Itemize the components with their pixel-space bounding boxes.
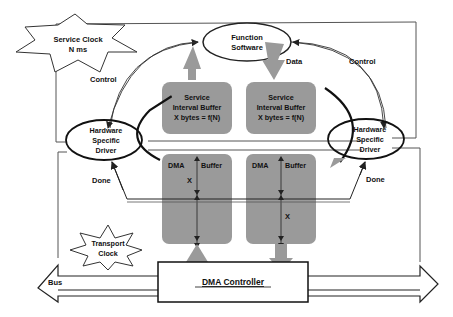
done-label-left: Done [92, 176, 111, 185]
up-arrow-dma-left [186, 244, 208, 262]
dma-left-x-label: X [187, 176, 192, 185]
data-label: Data [286, 57, 303, 66]
dma-left-buffer-label: Buffer [201, 161, 222, 170]
sib-left-label-3: X bytes = f(N) [174, 113, 221, 122]
dma-buffer-right: DMA Buffer X [246, 154, 316, 248]
service-clock-star: Service Clock N ms [16, 14, 137, 72]
control-label-left: Control [90, 75, 117, 84]
service-interval-buffer-right: Service Interval Buffer X bytes = f(N) [246, 82, 316, 134]
dma-right-label: DMA [252, 161, 268, 170]
transport-clock-label-1: Transport [91, 239, 125, 248]
dma-right-x-label: X [285, 212, 290, 221]
right-driver-label-3: Driver [360, 145, 381, 154]
hardware-driver-left: Hardware Specific Driver [66, 120, 142, 160]
dma-controller-label: DMA Controller [202, 277, 265, 287]
bus-label: Bus [48, 278, 62, 287]
dma-buffer-left: DMA Buffer X [162, 154, 232, 248]
function-software-label: Function [231, 33, 263, 42]
right-driver-label-2: Specific [356, 135, 384, 144]
left-driver-label-1: Hardware [90, 126, 123, 135]
dma-architecture-diagram: Service Clock N ms Function Software Con… [0, 0, 453, 317]
sib-right-label-2: Interval Buffer [257, 103, 306, 112]
sib-right-label-3: X bytes = f(N) [258, 113, 305, 122]
dma-right-buffer-label: Buffer [285, 161, 306, 170]
sib-left-label-2: Interval Buffer [173, 103, 222, 112]
sib-left-label-1: Service [184, 93, 210, 102]
left-driver-label-2: Specific [92, 136, 120, 145]
up-arrow-left-sib [183, 46, 201, 80]
sib-right-label-1: Service [268, 93, 294, 102]
dma-controller: DMA Controller [158, 262, 308, 302]
right-driver-label-1: Hardware [354, 125, 387, 134]
transport-clock-star: Transport Clock [70, 225, 142, 270]
done-label-right: Done [366, 175, 385, 184]
dma-left-label: DMA [168, 161, 184, 170]
function-software-label-2: Software [231, 43, 263, 52]
service-clock-label: Service Clock [53, 35, 103, 44]
transport-clock-label-2: Clock [98, 249, 118, 258]
done-path [112, 162, 365, 199]
left-driver-label-3: Driver [96, 146, 117, 155]
control-label-right: Control [349, 57, 376, 66]
hardware-driver-right: Hardware Specific Driver [328, 119, 404, 159]
service-interval-buffer-left: Service Interval Buffer X bytes = f(N) [162, 82, 232, 134]
service-clock-period: N ms [69, 45, 87, 54]
